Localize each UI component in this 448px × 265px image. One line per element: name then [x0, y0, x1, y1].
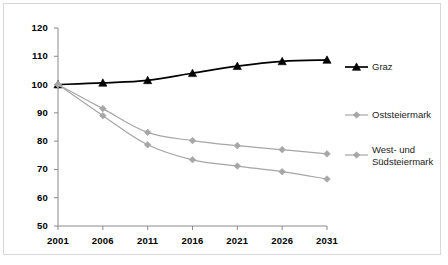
x-axis-tick-label: 2011 — [128, 235, 168, 246]
y-axis-tick-label: 80 — [22, 135, 48, 146]
data-point-marker-diamond — [189, 137, 196, 144]
y-axis-tick-label: 70 — [22, 163, 48, 174]
chart-series — [54, 56, 331, 88]
y-axis-tick-label: 120 — [22, 22, 48, 33]
x-axis-tick-label: 2031 — [307, 235, 347, 246]
chart-legend — [345, 63, 368, 158]
data-point-marker-diamond — [324, 176, 331, 183]
legend-entry-label-line1: West- und — [372, 144, 433, 156]
data-point-marker-diamond — [279, 146, 286, 153]
chart-series — [55, 81, 331, 157]
legend-entry-label-line1: Oststeiermark — [372, 109, 431, 121]
data-point-marker-diamond — [234, 163, 241, 170]
line-chart — [0, 0, 448, 265]
x-axis-tick-label: 2001 — [38, 235, 78, 246]
y-axis-tick-label: 110 — [22, 50, 48, 61]
chart-axes — [54, 28, 327, 230]
chart-series-layer — [54, 56, 331, 182]
x-axis-tick-label: 2006 — [83, 235, 123, 246]
y-axis-ticks — [54, 28, 58, 226]
x-axis-tick-label: 2021 — [217, 235, 257, 246]
legend-entry-label: Oststeiermark — [372, 109, 431, 121]
data-point-marker-diamond — [353, 152, 360, 159]
data-point-marker-diamond — [100, 105, 107, 112]
legend-entry-label-line2: Südsteiermark — [372, 156, 433, 168]
data-point-marker-diamond — [189, 157, 196, 164]
chart-series — [55, 81, 331, 182]
y-axis-tick-label: 100 — [22, 79, 48, 90]
y-axis-tick-label: 60 — [22, 192, 48, 203]
x-axis-ticks — [58, 226, 327, 230]
x-axis-tick-label: 2016 — [173, 235, 213, 246]
x-axis-tick-label: 2026 — [262, 235, 302, 246]
legend-entry-label: Graz — [372, 61, 393, 73]
legend-entry-label-line1: Graz — [372, 61, 393, 73]
data-point-marker-diamond — [144, 129, 151, 136]
data-point-marker-diamond — [324, 151, 331, 158]
data-point-marker-diamond — [100, 112, 107, 119]
y-axis-tick-label: 90 — [22, 107, 48, 118]
legend-entry-label: West- undSüdsteiermark — [372, 144, 433, 167]
data-point-marker-diamond — [279, 168, 286, 175]
data-point-marker-diamond — [353, 112, 360, 119]
data-point-marker-diamond — [144, 142, 151, 149]
y-axis-tick-label: 50 — [22, 220, 48, 231]
series-line — [58, 85, 327, 179]
data-point-marker-diamond — [234, 142, 241, 149]
